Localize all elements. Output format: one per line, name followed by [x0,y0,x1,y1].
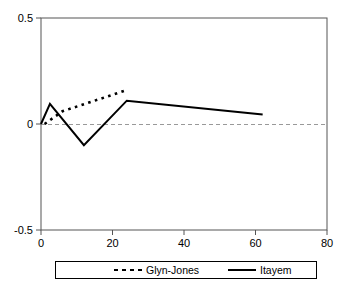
x-axis-label-0: 0 [38,237,44,249]
legend-item-glyn-jones: Glyn-Jones [114,262,199,278]
legend-label-itayem: Itayem [260,264,292,276]
x-axis-label-80: 80 [321,237,333,249]
legend-solid-line-icon [228,265,256,275]
chart-legend: Glyn-Jones Itayem [55,261,317,279]
x-axis-label-20: 20 [106,237,118,249]
y-axis-label-top: 0.5 [0,12,33,24]
chart-plot-area [0,0,341,283]
x-axis-label-40: 40 [178,237,190,249]
y-axis-label-zero: 0 [0,118,33,130]
legend-label-glyn-jones: Glyn-Jones [146,264,199,276]
x-axis-label-60: 60 [249,237,261,249]
legend-item-itayem: Itayem [228,262,292,278]
y-axis-label-bottom: -0.5 [0,224,33,236]
chart-container: 0.5 0 -0.5 0 20 40 60 80 Glyn-Jones Itay… [0,0,341,283]
legend-dashed-line-icon [114,265,142,275]
